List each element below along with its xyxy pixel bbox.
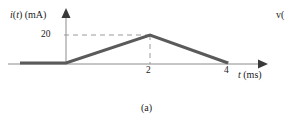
x-tick-label-2: 2 [146, 66, 151, 76]
adjacent-figure-clipped-label: v( [276, 10, 284, 20]
y-axis-label-unit: (mA) [25, 9, 47, 20]
y-tick-label-20: 20 [41, 30, 51, 40]
y-axis-arrowhead [62, 8, 71, 18]
y-axis-label-paren-close: ) [19, 9, 22, 20]
x-axis-arrowhead [258, 60, 268, 69]
y-axis-label: i(t) (mA) [10, 10, 46, 20]
x-tick-label-4: 4 [224, 66, 229, 76]
figure-caption: (a) [0, 102, 293, 113]
waveform-trace [20, 35, 228, 63]
x-axis-label-symbol: t [238, 69, 241, 80]
x-axis-label: t (ms) [238, 70, 262, 80]
x-axis-label-unit: (ms) [243, 69, 261, 80]
figure-waveform-a: i(t) (mA) 20 2 4 t (ms) (a) v( [0, 0, 293, 128]
